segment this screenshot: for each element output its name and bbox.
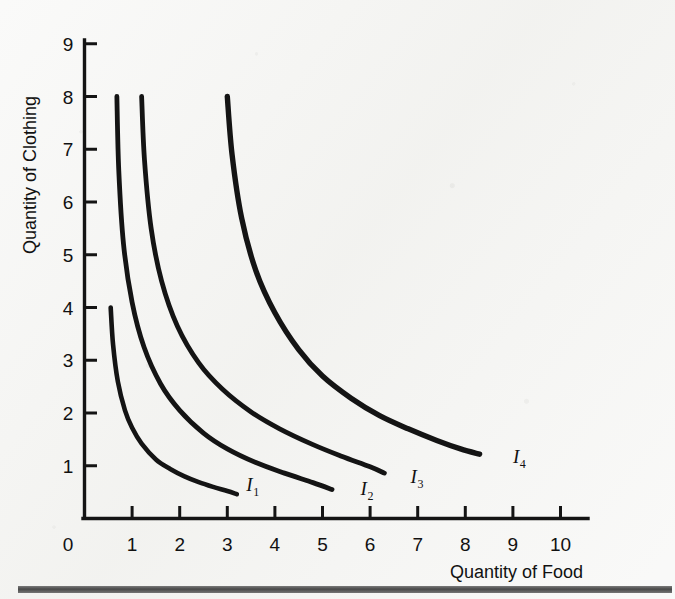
y-tick-label: 6 (63, 192, 74, 213)
y-tick-label: 3 (63, 350, 74, 371)
x-axis-ticks (132, 506, 560, 519)
curve-label-i2: I2 (360, 478, 374, 503)
y-axis-ticks (85, 44, 98, 466)
x-tick-label: 3 (222, 534, 233, 555)
bottom-rule-divider (18, 586, 672, 593)
x-tick-label: 10 (550, 534, 571, 555)
y-tick-label: 1 (63, 456, 74, 477)
y-axis-title: Quantity of Clothing (20, 96, 40, 254)
curve-label-text: I2 (360, 478, 374, 503)
curve-label-text: I4 (512, 446, 526, 471)
y-tick-label: 4 (63, 298, 74, 319)
curve-label-text: I1 (245, 474, 259, 499)
curve-label-i3: I3 (410, 466, 424, 491)
curve-label-i4: I4 (512, 446, 526, 471)
y-tick-label: 9 (63, 34, 74, 55)
indifference-curve-i4 (227, 97, 479, 455)
x-tick-label: 5 (317, 534, 328, 555)
indifference-curve-figure: 123456789 12345678910 0 Quantity of Food… (0, 0, 675, 599)
x-tick-label: 2 (174, 534, 185, 555)
x-tick-label: 6 (365, 534, 376, 555)
x-tick-label: 1 (127, 534, 138, 555)
x-tick-label: 8 (460, 534, 471, 555)
x-tick-label: 4 (270, 534, 281, 555)
x-axis-tick-labels: 12345678910 (127, 534, 571, 555)
indifference-curves (111, 97, 480, 495)
y-tick-label: 2 (63, 403, 74, 424)
y-axis-tick-labels: 123456789 (63, 34, 74, 477)
curve-label-text: I3 (410, 466, 424, 491)
axis-origin-label: 0 (63, 534, 74, 555)
curve-label-i1: I1 (245, 474, 259, 499)
y-tick-label: 7 (63, 139, 74, 160)
y-tick-label: 8 (63, 87, 74, 108)
x-tick-label: 7 (412, 534, 423, 555)
indifference-curve-i2 (117, 97, 332, 490)
x-axis-title: Quantity of Food (450, 562, 583, 582)
x-tick-label: 9 (508, 534, 519, 555)
y-tick-label: 5 (63, 245, 74, 266)
